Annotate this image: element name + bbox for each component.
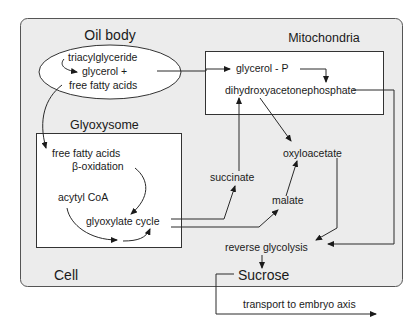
node-acytyl-coa: acytyl CoA bbox=[58, 191, 108, 203]
node-dhap: dihydroxyacetonephosphate bbox=[225, 84, 357, 96]
node-oxyloacetate: oxyloacetate bbox=[283, 147, 342, 159]
node-free-fatty-acids-oil: free fatty acids bbox=[69, 79, 137, 91]
node-glycerol-plus: glycerol + bbox=[82, 65, 127, 77]
cell-label: Cell bbox=[54, 267, 78, 283]
node-reverse-glycolysis: reverse glycolysis bbox=[225, 241, 308, 253]
node-glyoxylate-cycle: glyoxylate cycle bbox=[86, 215, 160, 227]
node-triacylglyceride: triacylglyceride bbox=[68, 51, 138, 63]
node-succinate: succinate bbox=[210, 171, 255, 183]
mitochondria-label: Mitochondria bbox=[288, 31, 360, 45]
node-beta-oxidation: β-oxidation bbox=[72, 160, 124, 172]
oil-body-label: Oil body bbox=[84, 27, 135, 43]
node-sucrose: Sucrose bbox=[238, 267, 290, 283]
node-glycerol-p: glycerol - P bbox=[236, 62, 289, 74]
node-free-fatty-acids: free fatty acids bbox=[52, 147, 120, 159]
glyoxylate-pathway-diagram: Cell Oil body triacylglyceride glycerol … bbox=[0, 0, 418, 328]
mitochondria-compartment bbox=[206, 52, 384, 115]
node-transport: transport to embryo axis bbox=[243, 298, 356, 310]
glyoxysome-label: Glyoxysome bbox=[70, 118, 139, 132]
node-malate: malate bbox=[272, 194, 304, 206]
